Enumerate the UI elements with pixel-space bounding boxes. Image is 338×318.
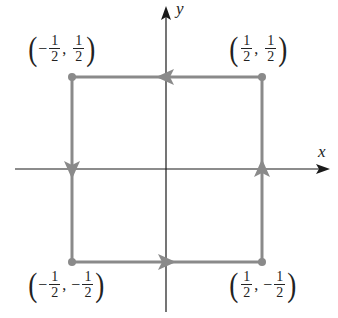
open-paren: (	[28, 32, 37, 66]
open-paren: (	[229, 268, 238, 302]
fraction: 12	[241, 270, 252, 300]
close-paren: )	[86, 32, 95, 66]
open-paren: (	[229, 32, 238, 66]
x-axis-label: x	[318, 142, 326, 162]
fraction: 12	[49, 270, 60, 300]
open-paren: (	[28, 268, 37, 302]
comma: ,	[62, 276, 66, 294]
fraction: 12	[82, 270, 93, 300]
vertex-bottom-right	[258, 258, 266, 266]
comma: ,	[62, 40, 66, 58]
close-paren: )	[287, 268, 296, 302]
close-paren: )	[96, 268, 105, 302]
label-bottom-right: ( 12 , − 12 )	[228, 268, 298, 302]
fraction: 12	[241, 34, 252, 64]
y-axis-label: y	[176, 0, 184, 19]
fraction: 12	[73, 34, 84, 64]
sign: −	[263, 276, 272, 294]
fraction: 12	[274, 270, 285, 300]
sign: −	[38, 276, 47, 294]
label-bottom-left: ( − 12 , − 12 )	[27, 268, 106, 302]
sign: −	[71, 276, 80, 294]
fraction: 12	[49, 34, 60, 64]
sign: −	[38, 40, 47, 58]
vertex-top-left	[68, 73, 76, 81]
label-top-right: ( 12 , 12 )	[228, 32, 289, 66]
vertex-bottom-left	[68, 258, 76, 266]
comma: ,	[254, 40, 258, 58]
close-paren: )	[278, 32, 287, 66]
vertex-top-right	[258, 73, 266, 81]
comma: ,	[254, 276, 258, 294]
label-top-left: ( − 12 , 12 )	[27, 32, 97, 66]
fraction: 12	[265, 34, 276, 64]
